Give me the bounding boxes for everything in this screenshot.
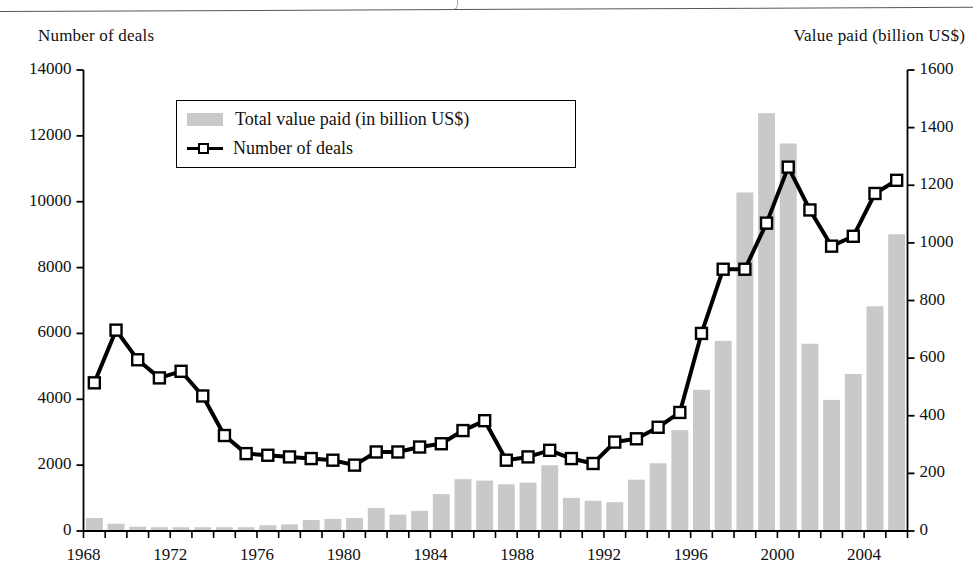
line-marker xyxy=(544,445,555,456)
line-marker xyxy=(176,366,187,377)
left-axis-tick-label: 6000 xyxy=(38,322,72,342)
right-axis-tick-label: 1600 xyxy=(920,59,954,79)
x-axis-tick-label: 1972 xyxy=(153,545,187,565)
line-marker xyxy=(804,204,815,215)
x-axis-tick-label: 2000 xyxy=(760,545,794,565)
line-marker xyxy=(523,451,534,462)
bar xyxy=(736,192,753,531)
bar xyxy=(455,479,472,531)
legend-line-label: Number of deals xyxy=(233,138,353,159)
line-marker xyxy=(848,231,859,242)
bar xyxy=(346,518,363,531)
left-axis-tick-label: 8000 xyxy=(38,257,72,277)
x-axis-tick-label: 2004 xyxy=(847,545,881,565)
line-marker xyxy=(826,241,837,252)
bar xyxy=(888,234,905,531)
bar xyxy=(433,494,450,531)
line-marker xyxy=(869,188,880,199)
right-axis-tick-label: 400 xyxy=(920,405,946,425)
line-marker xyxy=(197,390,208,401)
bar xyxy=(585,501,602,531)
right-axis-tick-label: 1000 xyxy=(920,232,954,252)
bar xyxy=(715,341,732,531)
right-axis-tick-label: 1400 xyxy=(920,117,954,137)
bar xyxy=(693,390,710,531)
line-marker xyxy=(436,438,447,449)
line-marker xyxy=(761,218,772,229)
bar xyxy=(324,519,341,531)
x-axis-tick-label: 1968 xyxy=(67,545,101,565)
bar xyxy=(411,511,428,531)
line-marker xyxy=(327,455,338,466)
left-axis-tick-label: 4000 xyxy=(38,388,72,408)
line-marker xyxy=(241,448,252,459)
right-axis-tick-label: 200 xyxy=(920,462,946,482)
chart-plot-area xyxy=(0,0,973,583)
chart-legend: Total value paid (in billion US$) Number… xyxy=(176,100,576,168)
bar xyxy=(758,113,775,531)
legend-bar-swatch-icon xyxy=(187,113,223,126)
x-axis-tick-label: 1988 xyxy=(500,545,534,565)
line-marker xyxy=(284,451,295,462)
line-marker xyxy=(783,162,794,173)
line-marker xyxy=(718,264,729,275)
bar xyxy=(86,518,103,531)
left-axis-tick-label: 0 xyxy=(63,520,72,540)
left-axis-tick-label: 10000 xyxy=(29,191,72,211)
line-marker xyxy=(349,460,360,471)
bar xyxy=(476,481,493,531)
line-marker xyxy=(479,415,490,426)
x-axis-tick-label: 1992 xyxy=(587,545,621,565)
bar xyxy=(650,463,667,531)
bar xyxy=(389,515,406,531)
line-marker xyxy=(653,422,664,433)
bar xyxy=(823,400,840,531)
line-marker xyxy=(566,453,577,464)
line-marker xyxy=(588,458,599,469)
left-axis-tick-label: 12000 xyxy=(29,125,72,145)
left-axis-tick-label: 14000 xyxy=(29,59,72,79)
x-axis-tick-label: 1980 xyxy=(327,545,361,565)
line-marker xyxy=(371,446,382,457)
line-marker xyxy=(501,455,512,466)
line-marker xyxy=(306,453,317,464)
line-marker xyxy=(609,437,620,448)
line-marker xyxy=(392,446,403,457)
line-marker xyxy=(891,175,902,186)
line-marker xyxy=(262,450,273,461)
line-marker xyxy=(696,328,707,339)
bar xyxy=(801,344,818,531)
bar xyxy=(563,498,580,531)
bar xyxy=(541,465,558,531)
line-marker xyxy=(414,442,425,453)
left-axis-tick-label: 2000 xyxy=(38,454,72,474)
line-marker xyxy=(111,325,122,336)
line-marker xyxy=(154,372,165,383)
legend-entry-line: Number of deals xyxy=(187,136,353,160)
legend-bars-label: Total value paid (in billion US$) xyxy=(235,109,469,130)
x-axis-tick-label: 1976 xyxy=(240,545,274,565)
bar xyxy=(780,143,797,531)
bar xyxy=(303,520,320,531)
bar xyxy=(628,480,645,531)
right-axis-tick-label: 1200 xyxy=(920,174,954,194)
bar xyxy=(867,306,884,531)
bar xyxy=(845,374,862,531)
line-marker xyxy=(89,377,100,388)
line-path xyxy=(94,167,896,465)
x-axis-tick-label: 1996 xyxy=(674,545,708,565)
line-marker xyxy=(674,407,685,418)
bar xyxy=(606,502,623,531)
chart-figure: Number of deals Value paid (billion US$)… xyxy=(0,0,973,583)
bar-series xyxy=(86,113,905,531)
line-marker xyxy=(219,430,230,441)
line-marker xyxy=(631,433,642,444)
line-marker xyxy=(457,425,468,436)
bar xyxy=(108,524,125,531)
line-marker xyxy=(132,354,143,365)
right-axis-tick-label: 600 xyxy=(920,347,946,367)
line-marker xyxy=(739,264,750,275)
right-axis-tick-label: 0 xyxy=(920,520,929,540)
x-axis-tick-label: 1984 xyxy=(413,545,447,565)
bar xyxy=(498,484,515,531)
